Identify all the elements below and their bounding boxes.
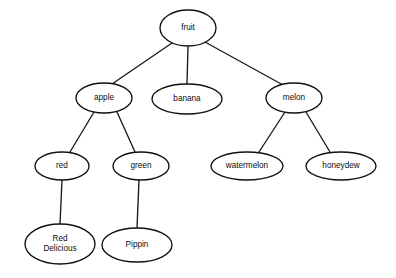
tree-edge-melon-honeydew bbox=[306, 112, 330, 152]
node-label-watermelon: watermelon bbox=[225, 161, 269, 170]
tree-edge-red-reddelicious bbox=[60, 180, 62, 224]
tree-node-banana[interactable]: banana bbox=[152, 84, 222, 114]
tree-edge-fruit-melon bbox=[205, 42, 283, 85]
tree-node-red[interactable]: red bbox=[35, 152, 89, 180]
node-label-fruit: fruit bbox=[181, 23, 195, 32]
edges-layer bbox=[60, 42, 330, 228]
tree-edge-melon-watermelon bbox=[259, 112, 285, 152]
node-label-red: red bbox=[56, 161, 68, 170]
tree-node-apple[interactable]: apple bbox=[76, 83, 132, 113]
tree-node-fruit[interactable]: fruit bbox=[160, 10, 216, 46]
tree-node-green[interactable]: green bbox=[113, 152, 169, 180]
node-label-line: Pippin bbox=[126, 240, 149, 249]
tree-edge-green-pippin bbox=[137, 180, 139, 228]
node-label-banana: banana bbox=[173, 94, 201, 103]
nodes-layer: fruitapplebananamelonredgreenwatermelonh… bbox=[25, 10, 376, 264]
tree-node-melon[interactable]: melon bbox=[266, 83, 322, 113]
node-label-line: apple bbox=[94, 93, 114, 102]
node-label-melon: melon bbox=[283, 93, 306, 102]
node-label-line: watermelon bbox=[225, 161, 269, 170]
node-label-line: banana bbox=[173, 94, 201, 103]
tree-edge-apple-green bbox=[117, 112, 135, 152]
node-label-line: Delicious bbox=[43, 244, 76, 253]
tree-node-pippin[interactable]: Pippin bbox=[102, 228, 172, 262]
tree-diagram-canvas: fruitapplebananamelonredgreenwatermelonh… bbox=[0, 0, 396, 278]
tree-node-honeydew[interactable]: honeydew bbox=[306, 152, 376, 180]
tree-edge-apple-red bbox=[70, 112, 94, 152]
node-label-honeydew: honeydew bbox=[322, 161, 359, 170]
node-label-apple: apple bbox=[94, 93, 114, 102]
tree-node-red-delicious[interactable]: RedDelicious bbox=[25, 224, 95, 264]
tree-edge-fruit-apple bbox=[112, 43, 172, 84]
node-label-line: green bbox=[131, 161, 152, 170]
tree-diagram-svg: fruitapplebananamelonredgreenwatermelonh… bbox=[0, 0, 396, 278]
node-label-line: Red bbox=[52, 234, 67, 243]
node-label-line: red bbox=[56, 161, 68, 170]
node-label-line: honeydew bbox=[322, 161, 359, 170]
node-label-line: melon bbox=[283, 93, 306, 102]
node-label-line: fruit bbox=[181, 23, 195, 32]
node-label-pippin: Pippin bbox=[126, 240, 149, 249]
node-label-green: green bbox=[131, 161, 152, 170]
tree-edge-fruit-banana bbox=[187, 46, 188, 84]
tree-node-watermelon[interactable]: watermelon bbox=[211, 152, 283, 180]
